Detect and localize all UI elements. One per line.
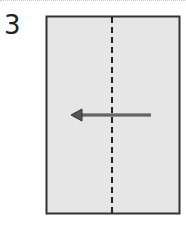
fold-diagram: [0, 0, 186, 225]
